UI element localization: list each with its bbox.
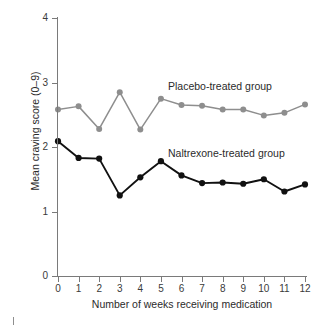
placebo-series-label: Placebo-treated group [168, 80, 272, 92]
y-tick-4 [52, 18, 57, 19]
y-tick-label-0: 0 [26, 271, 48, 281]
data-point [137, 174, 143, 180]
series-placebo [55, 89, 308, 132]
data-point [302, 101, 308, 107]
x-tick-5 [161, 277, 162, 282]
x-tick-10 [264, 277, 265, 282]
x-tick-2 [99, 277, 100, 282]
x-tick-0 [58, 277, 59, 282]
series-line [58, 92, 305, 129]
data-point [117, 89, 123, 95]
data-point [199, 180, 205, 186]
y-tick-3 [52, 83, 57, 84]
y-axis-line [57, 17, 58, 277]
data-point [281, 110, 287, 116]
data-point [220, 107, 226, 113]
data-point [76, 103, 82, 109]
y-tick-label-wrap-4: 4 [22, 13, 48, 23]
x-axis-title: Number of weeks receiving medication [57, 298, 307, 310]
x-tick-1 [79, 277, 80, 282]
data-point [96, 156, 102, 162]
data-point [281, 188, 287, 194]
x-tick-label-12: 12 [293, 283, 317, 294]
data-point [220, 179, 226, 185]
data-point [199, 103, 205, 109]
y-tick-label-4: 4 [26, 13, 48, 23]
y-tick-1 [52, 212, 57, 213]
y-tick-2 [52, 147, 57, 148]
x-tick-7 [202, 277, 203, 282]
data-point [302, 181, 308, 187]
data-point [96, 126, 102, 132]
y-tick-label-wrap-0: 0 [22, 271, 48, 281]
naltrexone-series-label: Naltrexone-treated group [168, 147, 285, 159]
data-point [178, 172, 184, 178]
data-point [240, 181, 246, 187]
data-point [75, 155, 81, 161]
data-point [117, 192, 123, 198]
data-point [158, 158, 164, 164]
x-tick-8 [223, 277, 224, 282]
data-point [261, 176, 267, 182]
page-edge-mark [13, 317, 14, 325]
data-point [261, 112, 267, 118]
data-point [55, 107, 61, 113]
x-tick-12 [305, 277, 306, 282]
x-tick-11 [284, 277, 285, 282]
data-point [240, 107, 246, 113]
y-tick-0 [52, 276, 57, 277]
data-point [137, 127, 143, 133]
x-tick-4 [140, 277, 141, 282]
craving-score-line-chart: 01234 0123456789101112 Mean craving scor… [0, 0, 320, 326]
x-tick-3 [120, 277, 121, 282]
data-point [55, 138, 61, 144]
x-tick-6 [182, 277, 183, 282]
data-point [158, 96, 164, 102]
x-tick-9 [243, 277, 244, 282]
y-axis-title: Mean craving score (0–9) [29, 36, 41, 226]
data-point [179, 102, 185, 108]
